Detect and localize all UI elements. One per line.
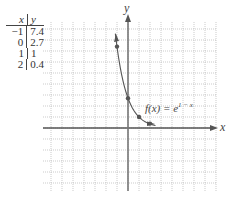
- graph: [0, 0, 231, 202]
- function-label: f(x) = e1 − x: [145, 101, 193, 114]
- data-point: [148, 121, 152, 125]
- function-label-base: f(x) = e: [145, 102, 178, 114]
- curve-arrow-icon: [114, 34, 119, 42]
- data-point: [137, 115, 141, 119]
- y-axis-label: y: [124, 1, 129, 16]
- x-arrow-icon: [210, 125, 218, 131]
- data-point: [115, 44, 119, 48]
- function-label-exponent: 1 − x: [178, 101, 193, 109]
- x-axis-label: x: [220, 120, 225, 135]
- data-point: [126, 96, 130, 100]
